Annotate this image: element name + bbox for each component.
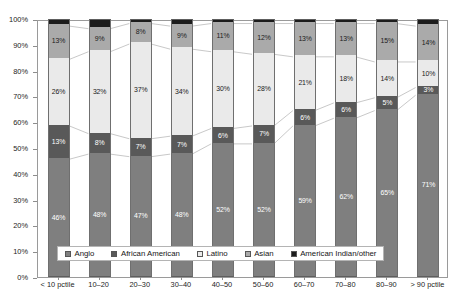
y-tick-label: 80%	[13, 68, 28, 76]
bar-segment: 7%	[130, 138, 152, 156]
bar-segment: 8%	[130, 22, 152, 43]
bar-segment: 6%	[212, 127, 234, 142]
x-tick-mark	[345, 277, 346, 280]
x-tick-label: 20–30	[129, 280, 150, 290]
bar-segment-label: 48%	[175, 211, 189, 218]
bar-segment	[253, 19, 275, 22]
legend-label: African American	[121, 249, 180, 258]
bar-group: 59%6%21%13%	[294, 19, 316, 277]
bar-segment: 11%	[212, 22, 234, 50]
bar-segment	[212, 19, 234, 22]
bar-group: 65%5%14%15%	[376, 19, 398, 277]
bar-segment	[294, 19, 316, 22]
legend-swatch-icon	[291, 251, 297, 257]
bar-segment-label: 18%	[340, 75, 354, 82]
y-tick-label: 20%	[13, 222, 28, 230]
x-tick-label: 40–50	[212, 280, 233, 290]
bar-group: 48%8%32%9%	[89, 19, 111, 277]
bar-segment: 34%	[171, 47, 193, 135]
y-tick-label: 100%	[9, 16, 28, 24]
bar-segment-label: 34%	[175, 88, 189, 95]
y-tick-label: 70%	[13, 93, 28, 101]
bar-segment: 15%	[376, 22, 398, 61]
x-tick-mark	[140, 277, 141, 280]
plot-area: 46%13%26%13%48%8%32%9%47%7%37%8%48%7%34%…	[37, 20, 448, 278]
x-tick-label: 10–20	[88, 280, 109, 290]
bar-segment: 37%	[130, 42, 152, 137]
bar-segment-label: 14%	[381, 75, 395, 82]
chart-legend: AngloAfrican AmericanLatinoAsianAmerican…	[57, 246, 384, 261]
stacked-bar-chart: 0%10%20%30%40%50%60%70%80%90%100% 46%13%…	[0, 0, 457, 300]
bar-segment: 13%	[48, 24, 70, 58]
y-tick-label: 0%	[17, 274, 28, 282]
bar-segment: 21%	[294, 55, 316, 109]
x-tick-mark	[386, 277, 387, 280]
legend-label: American Indian/other	[300, 249, 376, 258]
bar-segment: 7%	[253, 125, 275, 143]
x-tick-label: < 10 pctile	[41, 280, 75, 290]
bar-segment	[89, 19, 111, 27]
bar-segment-label: 13%	[298, 35, 312, 42]
bar-segment-label: 26%	[52, 88, 66, 95]
legend-item[interactable]: African American	[111, 249, 179, 258]
bar-segment: 32%	[89, 50, 111, 133]
bar-segment: 18%	[335, 55, 357, 101]
bar-segment-label: 11%	[216, 32, 229, 39]
bar-segment-label: 37%	[134, 86, 148, 93]
bar-segment-label: 3%	[424, 86, 434, 93]
bar-segment	[171, 19, 193, 24]
bar-segment-label: 52%	[216, 206, 230, 213]
legend-swatch-icon	[111, 251, 117, 257]
legend-item[interactable]: Latino	[197, 249, 228, 258]
bar-segment-label: 13%	[52, 138, 66, 145]
bar-segment-label: 7%	[177, 141, 187, 148]
bar-segment-label: 52%	[257, 206, 271, 213]
x-tick-mark	[99, 277, 100, 280]
bar-segment: 12%	[253, 22, 275, 53]
x-tick-label: 80–90	[376, 280, 397, 290]
bar-segment: 14%	[417, 24, 439, 60]
legend-label: Latino	[206, 249, 227, 258]
bar-segment-label: 65%	[381, 189, 395, 196]
legend-item[interactable]: Asian	[245, 249, 274, 258]
bar-segment: 13%	[48, 125, 70, 159]
x-tick-mark	[304, 277, 305, 280]
y-tick-mark	[33, 278, 37, 279]
bar-segment-label: 15%	[381, 37, 395, 44]
bar-segment-label: 5%	[382, 99, 392, 106]
bar-segment	[376, 19, 398, 22]
bar-segment-label: 71%	[422, 181, 436, 188]
bar-segment: 9%	[171, 24, 193, 47]
x-tick-mark	[222, 277, 223, 280]
bar-segment-label: 28%	[257, 85, 271, 92]
bar-segment	[48, 19, 70, 24]
y-tick-label: 60%	[13, 119, 28, 127]
bar-segment: 7%	[171, 135, 193, 153]
y-axis: 0%10%20%30%40%50%60%70%80%90%100%	[0, 20, 33, 278]
bar-segment: 9%	[89, 27, 111, 50]
bar-segment: 71%	[417, 94, 439, 277]
legend-label: Anglo	[75, 249, 95, 258]
bar-segment: 13%	[294, 22, 316, 56]
bar-group: 71%3%10%14%	[417, 19, 439, 277]
legend-item[interactable]: Anglo	[65, 249, 94, 258]
legend-swatch-icon	[245, 251, 251, 257]
y-tick-label: 40%	[13, 171, 28, 179]
bar-segment: 30%	[212, 50, 234, 127]
bar-segment-label: 12%	[257, 34, 271, 41]
legend-swatch-icon	[65, 251, 71, 257]
bar-segment	[335, 19, 357, 22]
bar-segment: 5%	[376, 96, 398, 109]
bar-segment: 8%	[89, 133, 111, 154]
bar-segment-label: 47%	[134, 212, 148, 219]
legend-item[interactable]: American Indian/other	[291, 249, 377, 258]
x-tick-mark	[263, 277, 264, 280]
bar-segment: 3%	[417, 86, 439, 94]
x-tick-label: > 90 pctile	[410, 280, 444, 290]
x-tick-mark	[427, 277, 428, 280]
bar-segment	[130, 19, 152, 22]
bar-segment: 14%	[376, 60, 398, 96]
bar-segment: 26%	[48, 58, 70, 125]
bar-segment: 10%	[417, 60, 439, 86]
y-tick-label: 50%	[13, 145, 28, 153]
